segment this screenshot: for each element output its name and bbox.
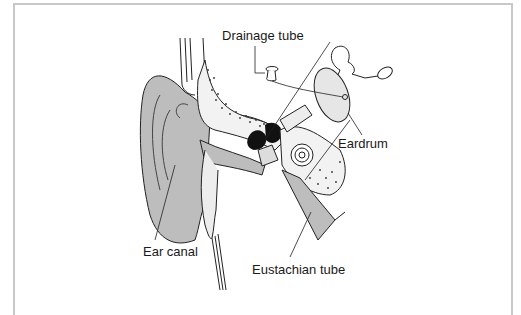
label-eustachian-tube: Eustachian tube [252, 263, 345, 276]
label-eardrum: Eardrum [338, 137, 388, 150]
label-drainage-tube: Drainage tube [222, 29, 304, 42]
label-ear-canal: Ear canal [143, 245, 198, 258]
